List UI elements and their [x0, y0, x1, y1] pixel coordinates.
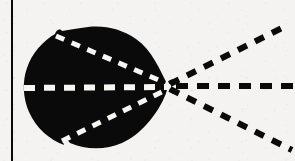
figure-canvas: Directional radiation pattern with dashe…: [0, 0, 295, 161]
vertex-gap-highlight: [167, 85, 171, 88]
radiation-pattern-diagram: [0, 0, 295, 161]
